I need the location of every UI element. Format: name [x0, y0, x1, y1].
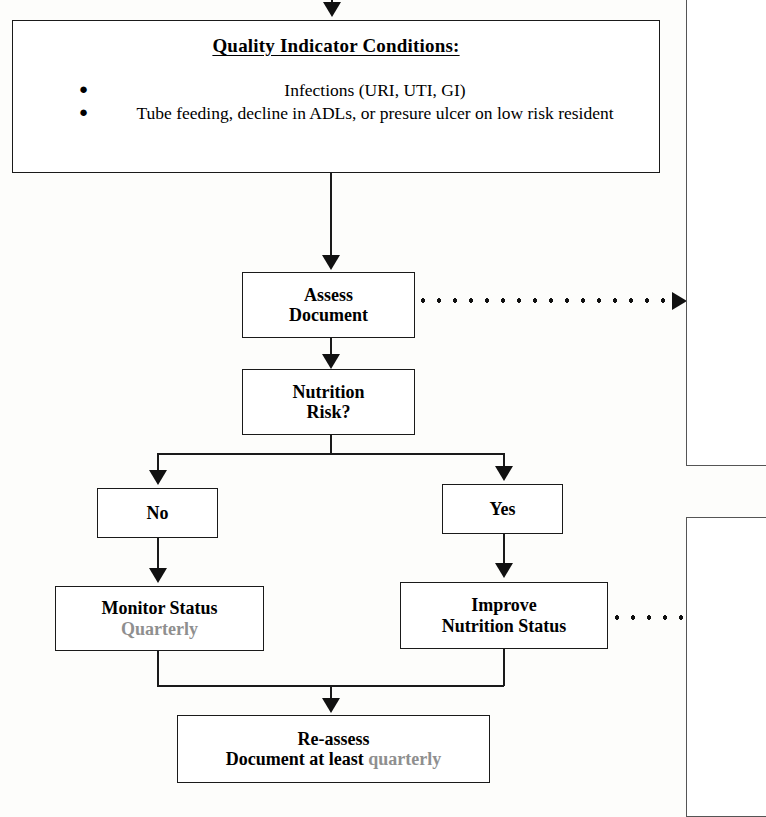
improve-line-2: Nutrition Status — [442, 616, 567, 636]
dotted-connector-improve-to-offpage — [609, 615, 694, 620]
improve-line-1: Improve — [442, 595, 567, 615]
list-item-text: Infections (URI, UTI, GI) — [284, 80, 465, 100]
arrow-into-assess-box — [322, 255, 340, 270]
arrow-into-improve-box — [495, 563, 513, 578]
conditions-bullet-list: ● Infections (URI, UTI, GI) ● Tube feedi… — [27, 79, 645, 124]
dotted-connector-assess-to-offpage — [415, 298, 670, 303]
risk-line-1: Nutrition — [293, 382, 365, 402]
connector-risk-stem — [330, 435, 332, 454]
monitor-line-1: Monitor Status — [101, 598, 217, 618]
connector-yes-to-improve — [503, 533, 505, 566]
connector-monitor-down — [157, 651, 159, 686]
offpage-box-bottom — [686, 517, 766, 817]
no-label: No — [147, 503, 169, 524]
arrow-into-conditions-box — [323, 2, 341, 17]
list-item: ● Infections (URI, UTI, GI) — [27, 79, 645, 101]
bullet-icon: ● — [79, 103, 88, 122]
connector-improve-down — [503, 649, 505, 686]
yes-label: Yes — [490, 499, 516, 520]
reassess-line-2: Document at least quarterly — [226, 749, 441, 769]
arrow-into-no-box — [149, 470, 167, 485]
list-item: ● Tube feeding, decline in ADLs, or pres… — [27, 102, 645, 124]
arrow-into-offpage-box-top — [672, 292, 687, 310]
nutrition-risk-decision-box: Nutrition Risk? — [242, 369, 415, 435]
monitor-line-2-quarterly: Quarterly — [101, 619, 217, 639]
risk-line-2: Risk? — [293, 402, 365, 422]
no-branch-box: No — [97, 488, 218, 538]
arrow-into-yes-box — [495, 466, 513, 481]
connector-conditions-to-assess — [330, 173, 332, 257]
bullet-icon: ● — [79, 80, 88, 99]
yes-branch-box: Yes — [442, 484, 563, 534]
conditions-heading: Quality Indicator Conditions: — [27, 35, 645, 57]
reassess-box: Re-assess Document at least quarterly — [177, 715, 490, 783]
connector-risk-split-horizontal — [157, 453, 504, 455]
quality-indicator-conditions-box: Quality Indicator Conditions: ● Infectio… — [12, 20, 660, 173]
connector-no-to-monitor — [157, 538, 159, 571]
monitor-status-box: Monitor Status Quarterly — [55, 586, 264, 651]
arrow-into-monitor-box — [149, 568, 167, 583]
assess-document-box: Assess Document — [242, 272, 415, 338]
arrow-into-reassess-box — [322, 698, 340, 713]
arrow-into-risk-box — [322, 354, 340, 369]
offpage-box-top — [686, 0, 766, 466]
reassess-line-2-quarterly: quarterly — [368, 749, 441, 769]
assess-line-1: Assess — [289, 285, 368, 305]
reassess-line-1: Re-assess — [226, 729, 441, 749]
assess-line-2: Document — [289, 305, 368, 325]
list-item-text: Tube feeding, decline in ADLs, or presur… — [136, 103, 613, 123]
reassess-line-2-bold: Document at least — [226, 749, 368, 769]
improve-nutrition-status-box: Improve Nutrition Status — [400, 582, 608, 649]
